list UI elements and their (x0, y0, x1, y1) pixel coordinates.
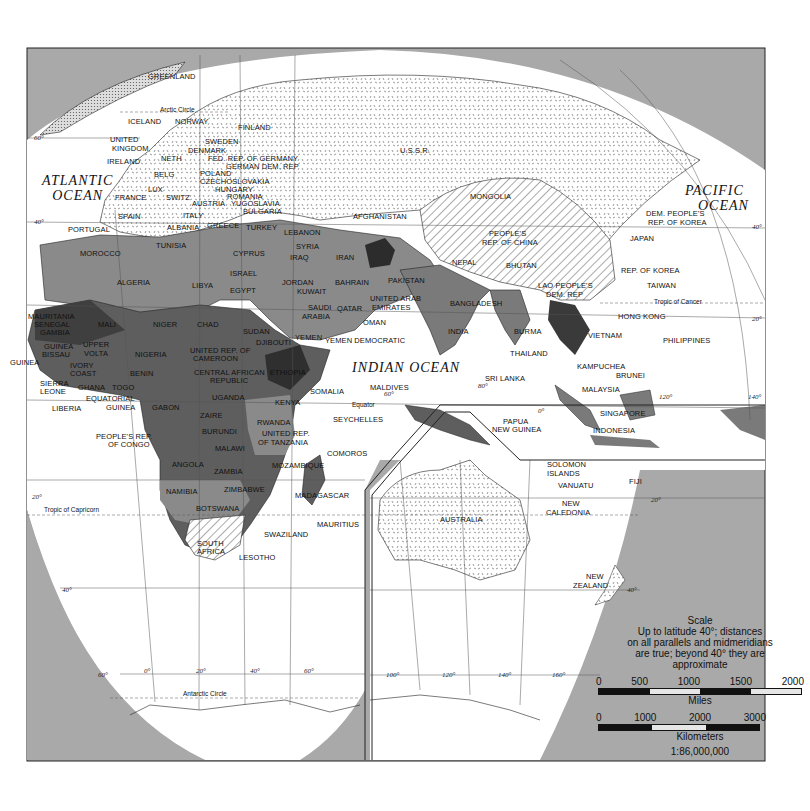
country-label: TURKEY (246, 224, 277, 232)
scale-title: Scale (590, 615, 810, 626)
lon-20-label: 20° (196, 667, 206, 675)
ocean-line: INDIAN OCEAN (352, 360, 460, 375)
country-label: PEOPLE'S (489, 230, 526, 238)
country-label: SOLOMON (547, 461, 586, 469)
country-label: BULGARIA (243, 208, 282, 216)
country-label: MAURITIUS (317, 521, 359, 529)
country-label: LUX (148, 186, 163, 194)
country-label: EMIRATES (372, 304, 411, 312)
country-label: KENYA (275, 399, 300, 407)
country-label: LEBANON (284, 229, 321, 237)
country-label: GUINEA (10, 359, 39, 367)
map-scale: Scale Up to latitude 40°; distances on a… (590, 615, 810, 757)
lat-20s-label-west: 20° (32, 493, 42, 501)
country-label: FIJI (629, 478, 642, 486)
miles-scale-bar (598, 688, 802, 695)
lon-0-label: 0° (144, 667, 150, 675)
country-label: SUDAN (243, 328, 270, 336)
country-label: HONG KONG (618, 313, 666, 321)
country-label: ISRAEL (230, 270, 257, 278)
km-ticks: 0 1000 2000 3000 (590, 712, 810, 723)
miles-ticks: 0 500 1000 1500 2000 (590, 676, 810, 687)
country-label: GAMBIA (40, 329, 70, 337)
country-label: IRELAND (107, 158, 140, 166)
country-label: TUNISIA (156, 242, 186, 250)
country-label: NIGERIA (135, 351, 167, 359)
country-label: GREECE (207, 222, 239, 230)
scale-note: Up to latitude 40°; distances (590, 626, 810, 637)
country-label: THAILAND (510, 350, 548, 358)
country-label: VIETNAM (588, 332, 622, 340)
country-label: CHAD (197, 321, 219, 329)
country-label: KAMPUCHEA (577, 363, 625, 371)
country-label: CALEDONIA (546, 509, 590, 517)
country-label: MALAYSIA (582, 386, 620, 394)
country-label: FINLAND (238, 124, 271, 132)
country-label: LIBYA (192, 282, 213, 290)
country-label: NEW (562, 500, 580, 508)
country-label: ZIMBABWE (224, 486, 265, 494)
country-label: AFGHANISTAN (353, 213, 407, 221)
country-label: IRAN (336, 254, 354, 262)
country-label: ALGERIA (117, 279, 150, 287)
country-label: MOROCCO (80, 250, 121, 258)
country-label: BURUNDI (202, 428, 237, 436)
country-label: SWAZILAND (264, 531, 308, 539)
country-label: ETHIOPIA (270, 369, 306, 377)
country-label: ISLANDS (547, 470, 580, 478)
tick: 2000 (782, 676, 804, 687)
country-label: GERMAN DEM. REP (226, 163, 299, 171)
country-label: UNITED (110, 136, 139, 144)
country-label: ZEALAND (573, 582, 608, 590)
country-label: DEM. PEOPLE'S (646, 210, 705, 218)
country-label: GABON (152, 404, 180, 412)
lat-40n-label-west: 40° (34, 218, 44, 226)
country-label: MALDIVES (370, 384, 409, 392)
tropic-of-cancer-label: Tropic of Cancer (654, 298, 702, 305)
country-label: NAMIBIA (166, 488, 198, 496)
country-label: JORDAN (282, 279, 313, 287)
lat-40s-label-east: 40° (627, 586, 637, 594)
country-label: SYRIA (296, 243, 319, 251)
country-label: COMOROS (327, 450, 367, 458)
country-label: MADAGASCAR (295, 492, 349, 500)
country-label: NEW (586, 573, 604, 581)
country-label: NEW GUINEA (492, 426, 541, 434)
country-label: BRUNEI (616, 372, 645, 380)
country-label: BHUTAN (506, 262, 537, 270)
country-label: NIGER (153, 321, 177, 329)
country-label: MOZAMBIQUE (272, 462, 324, 470)
country-label: LESOTHO (239, 554, 276, 562)
equator-label: Equator (352, 401, 375, 408)
country-label: LIBERIA (52, 405, 81, 413)
country-label: SOMALIA (310, 388, 344, 396)
country-label: NEPAL (452, 259, 477, 267)
country-label: PORTUGAL (68, 226, 110, 234)
lon-120-label: 120° (442, 671, 455, 679)
country-label: AUSTRIA (192, 200, 225, 208)
country-label: GHANA (78, 384, 105, 392)
lon-160-label: 160° (552, 671, 565, 679)
country-label: ANGOLA (172, 461, 204, 469)
lat-20s-label-east: 20° (651, 496, 661, 504)
country-label: CAMEROON (193, 355, 238, 363)
world-map: ATLANTIC OCEAN PACIFIC OCEAN INDIAN OCEA… (0, 0, 810, 811)
country-label: VOLTA (84, 350, 108, 358)
country-label: BOTSWANA (196, 505, 239, 513)
country-label: UPPER (83, 341, 109, 349)
country-label: ITALY (183, 212, 203, 220)
ocean-line: PACIFIC (680, 183, 749, 198)
lat-20n-label: 20° (752, 315, 762, 323)
country-label: SRI LANKA (485, 375, 525, 383)
country-label: OMAN (363, 319, 386, 327)
country-label: BANGLADESH (450, 300, 502, 308)
tick: 0 (596, 676, 602, 687)
country-label: REP. OF KOREA (621, 267, 680, 275)
lat-40s-label-west: 40° (62, 586, 72, 594)
country-label: TOGO (112, 384, 134, 392)
country-label: ARABIA (302, 313, 330, 321)
ocean-line: OCEAN (698, 198, 749, 213)
km-scale-bar (598, 724, 760, 731)
country-label: AFRICA (197, 548, 225, 556)
country-label: AUSTRALIA (440, 516, 483, 524)
